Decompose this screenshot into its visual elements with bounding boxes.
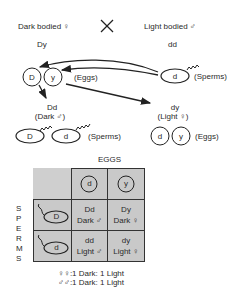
sperms-label: (Sperms) [194,72,227,81]
female-ratio: 1 Dark: 1 Light [72,269,124,278]
cross-icon [101,20,113,32]
sperm-d-label: d [173,72,177,81]
f1-sperm-d-label: d [64,132,68,141]
male-ratio-sex: ♂♂: [58,278,72,287]
eggs-header: EGGS [98,155,121,164]
punnett-square: d y D d Dd Dark ♂ Dy Dark ♀ dd Light ♂ d… [33,168,145,262]
offspring-dd: dd Light ♂ [71,230,108,262]
corner-cell [33,168,72,199]
f1-egg-y-label: y [179,132,183,141]
male-parent-label: Light bodied ♂ [144,22,196,31]
offspring-Dy: Dy Dark ♀ [107,199,145,231]
f1-female-phenotype: (Light ♀) [158,112,189,121]
f1-sperms-label: (Sperms) [88,132,121,141]
offspring-Dd: Dd Dark ♂ [71,199,108,231]
sperm-tail [187,65,199,70]
female-parent-genotype: Dy [37,40,47,49]
eggs-label: (Eggs) [74,73,98,82]
female-parent-label: Dark bodied ♀ [18,22,69,31]
f1-sperm-D-label: D [27,132,33,141]
egg-D-label: D [29,73,35,82]
male-parent-genotype: dd [168,40,177,49]
f1-male-genotype: Dd [47,103,57,112]
f1-eggs-label: (Eggs) [195,132,219,141]
male-ratio: 1 Dark: 1 Light [72,278,124,287]
sperm-header-D: D [33,199,72,231]
f1-female-genotype: dy [171,103,179,112]
female-ratio-sex: ♀♀: [58,269,72,278]
f1-egg-d-label: d [158,132,162,141]
offspring-dy: dy Light ♀ [107,230,145,262]
f1-male-phenotype: (Dark ♂) [35,112,65,121]
egg-header-d: d [71,168,108,200]
egg-y-label: y [51,73,55,82]
egg-header-y: y [107,168,145,200]
sperm-header-d: d [33,230,72,262]
